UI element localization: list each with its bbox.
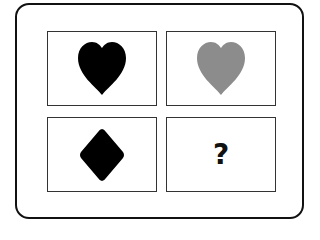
panel-black-diamond bbox=[47, 117, 157, 192]
diamond-icon bbox=[77, 127, 127, 183]
heart-icon bbox=[195, 41, 247, 97]
panel-gray-heart bbox=[166, 31, 276, 106]
panel-question[interactable]: ? bbox=[166, 117, 276, 192]
question-mark: ? bbox=[213, 141, 229, 169]
panel-black-heart bbox=[47, 31, 157, 106]
heart-icon bbox=[76, 41, 128, 97]
